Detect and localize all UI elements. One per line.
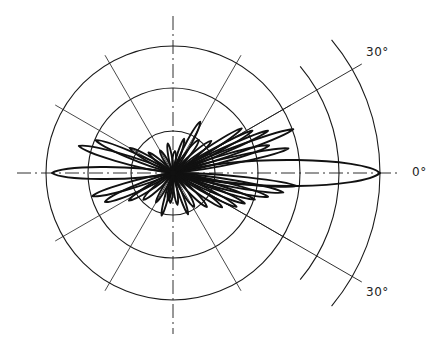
pattern-origin	[170, 170, 176, 176]
polar-grid	[17, 16, 397, 334]
radiation-pattern-lobes	[52, 121, 380, 216]
angle-label-0: 0°	[412, 165, 427, 179]
radiation-lobe	[172, 126, 295, 176]
angle-label-upper-30: 30°	[366, 45, 389, 59]
angle-label-lower-30: 30°	[366, 285, 389, 299]
